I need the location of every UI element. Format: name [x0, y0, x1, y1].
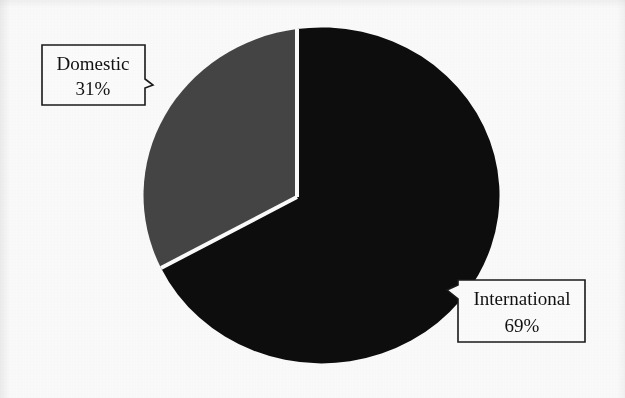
pie-slices [144, 27, 500, 363]
callout-domestic-label: Domestic [57, 53, 130, 74]
callout-domestic-value: 31% [76, 78, 111, 99]
callout-domestic[interactable]: Domestic 31% [42, 45, 153, 105]
callout-international[interactable]: International 69% [447, 280, 585, 342]
pie-chart-svg: Domestic 31% International 69% [0, 0, 625, 398]
callout-international-label: International [473, 288, 570, 309]
callout-international-value: 69% [505, 315, 540, 336]
pie-chart-figure: Domestic 31% International 69% [0, 0, 625, 398]
